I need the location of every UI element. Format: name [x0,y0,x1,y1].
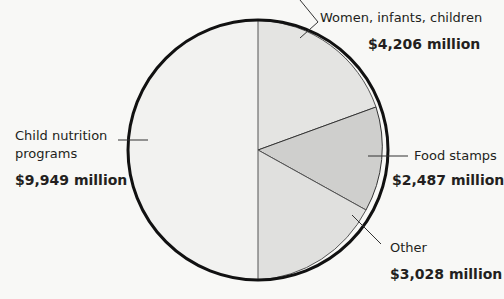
label-wic-value: $4,206 million [368,36,480,52]
label-child-value: $9,949 million [15,172,127,188]
label-food-value: $2,487 million [392,172,504,188]
label-wic-name: Women, infants, children [320,10,482,26]
label-child-name-2: programs [15,146,77,162]
label-food-name: Food stamps [414,148,497,164]
slice-child-nutrition [128,20,258,280]
label-other-value: $3,028 million [390,266,502,282]
label-other-name: Other [390,240,427,256]
label-child-name-1: Child nutrition [15,128,107,144]
